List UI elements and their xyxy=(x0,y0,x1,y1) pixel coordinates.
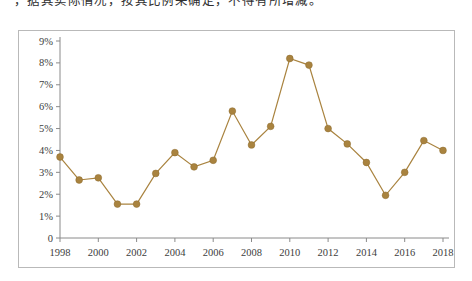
data-point-marker xyxy=(57,154,64,161)
data-point-marker xyxy=(191,163,198,170)
data-point-marker xyxy=(76,177,83,184)
x-tick-label: 2008 xyxy=(241,247,262,258)
x-tick-label: 2002 xyxy=(126,247,147,258)
data-point-marker xyxy=(267,123,274,130)
y-axis-ticks: 01%2%3%4%5%6%7%8%9% xyxy=(39,36,60,244)
data-point-marker xyxy=(325,125,332,132)
y-tick-label: 6% xyxy=(39,101,53,112)
data-point-marker xyxy=(286,55,293,62)
x-tick-label: 2000 xyxy=(88,247,109,258)
y-tick-label: 4% xyxy=(39,145,53,156)
x-tick-label: 2006 xyxy=(203,247,224,258)
data-point-marker xyxy=(306,62,313,69)
x-tick-label: 2004 xyxy=(164,247,186,258)
data-point-marker xyxy=(172,149,179,156)
x-tick-label: 1998 xyxy=(50,247,71,258)
y-tick-label: 3% xyxy=(39,167,53,178)
caption-text: ，据其实际情况，按其比例来确定，不得有所增减。 xyxy=(14,0,322,9)
data-point-marker xyxy=(114,201,121,208)
x-tick-label: 2014 xyxy=(356,247,378,258)
series-markers xyxy=(57,55,447,207)
x-tick-label: 2018 xyxy=(433,247,454,258)
data-point-marker xyxy=(133,201,140,208)
y-tick-label: 1% xyxy=(39,211,53,222)
data-point-marker xyxy=(95,174,102,181)
data-point-marker xyxy=(229,108,236,115)
x-tick-label: 2016 xyxy=(394,247,415,258)
data-point-marker xyxy=(152,170,159,177)
data-point-marker xyxy=(440,147,447,154)
x-tick-label: 2012 xyxy=(318,247,339,258)
y-tick-label: 7% xyxy=(39,79,53,90)
y-tick-label: 5% xyxy=(39,123,53,134)
y-tick-label: 8% xyxy=(39,57,53,68)
data-point-marker xyxy=(420,137,427,144)
clipped-caption-strip: ，据其实际情况，按其比例来确定，不得有所增减。 xyxy=(0,0,472,11)
line-chart-svg: 01%2%3%4%5%6%7%8%9% 19982000200220042006… xyxy=(19,31,454,267)
series-line-path xyxy=(60,59,443,205)
y-tick-label: 2% xyxy=(39,189,53,200)
data-point-marker xyxy=(210,157,217,164)
plot-area: 01%2%3%4%5%6%7%8%9% 19982000200220042006… xyxy=(19,31,454,267)
x-tick-label: 2010 xyxy=(279,247,300,258)
data-point-marker xyxy=(344,140,351,147)
x-axis-ticks: 1998200020022004200620082010201220142016… xyxy=(50,238,454,258)
data-point-marker xyxy=(363,159,370,166)
y-tick-label: 9% xyxy=(39,36,53,47)
y-tick-label: 0 xyxy=(48,233,53,244)
data-point-marker xyxy=(401,169,408,176)
data-point-marker xyxy=(382,192,389,199)
data-point-marker xyxy=(248,142,255,149)
chart-figure-box: 01%2%3%4%5%6%7%8%9% 19982000200220042006… xyxy=(18,30,455,268)
